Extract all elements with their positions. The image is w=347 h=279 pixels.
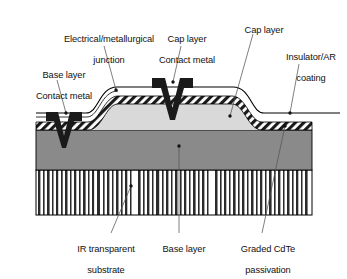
label-ir-transparent-substrate: IR transparent substrate: [58, 234, 144, 279]
label-base-layer: Base layer: [148, 234, 210, 265]
label-cap-layer-contact-metal: Cap layer Contact metal: [140, 24, 224, 76]
label-line-2: passivation: [245, 265, 290, 275]
label-line-1: Cap layer: [168, 34, 207, 44]
label-line-1: Base layer: [43, 70, 86, 80]
label-line-2: coating: [296, 73, 325, 83]
label-line-1: Cap layer: [245, 25, 284, 35]
label-line-1: Insulator/AR: [286, 52, 336, 62]
base-layer: [36, 130, 312, 170]
label-base-layer-contact-metal: Base layer Contact metal: [8, 60, 110, 112]
label-line-1: IR transparent: [77, 244, 135, 254]
label-insulator-ar-coating: Insulator/AR coating: [268, 42, 344, 94]
label-line-1: Base layer: [163, 244, 206, 254]
label-line-2: substrate: [87, 265, 124, 275]
label-line-1: Graded CdTe: [241, 244, 295, 254]
label-line-2: Contact metal: [159, 55, 215, 65]
label-line-2: Contact metal: [36, 91, 92, 101]
label-graded-cdte-passivation: Graded CdTe passivation: [222, 234, 304, 279]
